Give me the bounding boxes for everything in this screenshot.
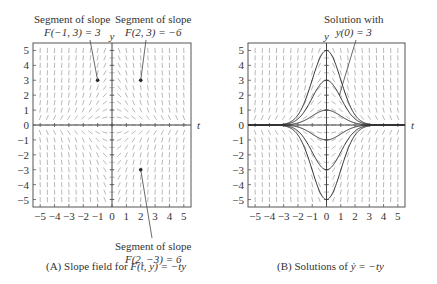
svg-text:−5: −5: [34, 210, 46, 222]
svg-text:1: 1: [124, 210, 130, 222]
svg-text:−5: −5: [17, 194, 29, 206]
annotation-solution-y0-3: Solution with y(0) = 3: [324, 13, 384, 39]
svg-text:−2: −2: [77, 210, 89, 222]
svg-text:−4: −4: [49, 210, 61, 222]
svg-text:0: 0: [109, 210, 115, 222]
svg-text:5: 5: [24, 44, 30, 56]
svg-text:−3: −3: [17, 164, 29, 176]
svg-text:3: 3: [24, 74, 30, 86]
svg-text:0: 0: [239, 119, 245, 131]
svg-text:2: 2: [24, 89, 30, 101]
svg-text:4: 4: [239, 59, 245, 71]
svg-text:−5: −5: [232, 194, 244, 206]
svg-text:3: 3: [367, 210, 373, 222]
svg-text:5: 5: [239, 44, 245, 56]
svg-text:5: 5: [181, 210, 187, 222]
svg-text:−1: −1: [232, 134, 244, 146]
caption-a: (A) Slope field for F(t, y) = −ty: [46, 260, 186, 272]
svg-text:−2: −2: [232, 149, 244, 161]
annotation-slope-a2: Segment of slope F(2, 3) = −6: [115, 13, 191, 39]
svg-text:−3: −3: [278, 210, 290, 222]
svg-text:−1: −1: [17, 134, 29, 146]
svg-text:1: 1: [239, 104, 245, 116]
svg-text:4: 4: [381, 210, 387, 222]
svg-text:−1: −1: [306, 210, 318, 222]
svg-text:2: 2: [239, 89, 245, 101]
svg-text:1: 1: [338, 210, 344, 222]
svg-text:−5: −5: [249, 210, 261, 222]
svg-text:0: 0: [324, 210, 330, 222]
slope-field-plot-a: −5−4−3−2−1012345543210−1−2−3−4−5ty: [17, 30, 201, 238]
svg-text:−2: −2: [17, 149, 29, 161]
svg-text:5: 5: [395, 210, 401, 222]
svg-text:−4: −4: [264, 210, 276, 222]
svg-text:0: 0: [24, 119, 30, 131]
solution-curves-plot-b: −5−4−3−2−1012345543210−1−2−3−4−5ty: [232, 30, 415, 222]
svg-text:−3: −3: [63, 210, 75, 222]
svg-text:t: t: [197, 119, 201, 131]
svg-text:2: 2: [352, 210, 358, 222]
caption-b: (B) Solutions of ẏ = −ty: [277, 260, 384, 272]
svg-text:3: 3: [239, 74, 245, 86]
svg-text:1: 1: [24, 104, 30, 116]
svg-text:−1: −1: [92, 210, 104, 222]
svg-text:3: 3: [152, 210, 158, 222]
svg-text:2: 2: [138, 210, 144, 222]
svg-text:−4: −4: [232, 179, 244, 191]
svg-text:−4: −4: [17, 179, 29, 191]
slope-field-figure: −5−4−3−2−1012345543210−1−2−3−4−5ty−5−4−3…: [0, 0, 437, 284]
svg-text:−2: −2: [292, 210, 304, 222]
annotation-slope-a1: Segment of slope F(−1, 3) = 3: [34, 13, 110, 39]
svg-text:4: 4: [167, 210, 173, 222]
svg-text:−3: −3: [232, 164, 244, 176]
svg-text:4: 4: [24, 59, 30, 71]
svg-text:t: t: [411, 119, 415, 131]
